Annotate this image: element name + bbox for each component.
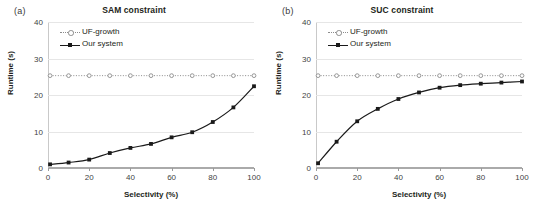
- chart-title-a: SAM constraint: [0, 5, 268, 15]
- x-tick-label: 60: [167, 173, 176, 182]
- data-point-marker: [67, 74, 71, 78]
- data-point-marker: [48, 74, 52, 78]
- data-point-marker: [170, 74, 174, 78]
- data-point-marker: [232, 74, 236, 78]
- data-point-marker: [232, 106, 236, 110]
- legend-label-our-system: Our system: [350, 38, 391, 50]
- data-point-marker: [458, 74, 462, 78]
- legend-item-our-system: Our system: [60, 38, 123, 50]
- data-point-marker: [190, 74, 194, 78]
- data-point-marker: [355, 119, 359, 123]
- data-point-marker: [211, 120, 215, 124]
- data-point-marker: [417, 91, 421, 95]
- data-point-marker: [129, 146, 133, 150]
- data-point-marker: [438, 74, 442, 78]
- data-point-marker: [479, 82, 483, 86]
- legend-marker-open-circle-icon: [328, 28, 348, 37]
- data-point-marker: [479, 74, 483, 78]
- x-tick: [89, 168, 90, 171]
- x-tick-label: 80: [476, 173, 485, 182]
- data-point-marker: [252, 74, 256, 78]
- data-point-marker: [190, 130, 194, 134]
- x-tick-label: 0: [46, 173, 50, 182]
- legend-label-uf-growth: UF-growth: [82, 26, 119, 38]
- data-point-marker: [170, 135, 174, 139]
- x-tick: [481, 168, 482, 171]
- y-tick-label: 40: [34, 18, 43, 27]
- x-tick: [316, 168, 317, 171]
- series-line-our-system: [50, 86, 254, 164]
- x-tick: [130, 168, 131, 171]
- legend-marker-filled-square-icon: [328, 40, 348, 49]
- y-gridline: [48, 168, 254, 169]
- data-point-marker: [67, 161, 71, 165]
- y-tick-label: 10: [34, 127, 43, 136]
- data-point-marker: [417, 74, 421, 78]
- data-point-marker: [397, 97, 401, 101]
- data-point-marker: [149, 74, 153, 78]
- data-point-marker: [108, 74, 112, 78]
- data-point-marker: [211, 74, 215, 78]
- data-point-marker: [376, 74, 380, 78]
- data-point-marker: [458, 83, 462, 87]
- x-tick-label: 100: [247, 173, 260, 182]
- x-tick-label: 40: [126, 173, 135, 182]
- legend-b: UF-growth Our system: [328, 26, 391, 51]
- x-axis-title-a: Selectivity (%): [48, 190, 254, 199]
- data-point-marker: [397, 74, 401, 78]
- legend-item-our-system: Our system: [328, 38, 391, 50]
- legend-a: UF-growth Our system: [60, 26, 123, 51]
- data-point-marker: [87, 74, 91, 78]
- x-tick: [522, 168, 523, 171]
- legend-marker-open-circle-icon: [60, 28, 80, 37]
- data-point-marker: [335, 74, 339, 78]
- y-tick-label: 30: [34, 54, 43, 63]
- y-gridline: [316, 168, 522, 169]
- y-axis-title-b: Runtime (s): [274, 51, 283, 95]
- chart-panel-b: (b) SUC constraint Runtime (s) Selectivi…: [268, 0, 536, 212]
- legend-label-our-system: Our system: [82, 38, 123, 50]
- x-tick-label: 60: [435, 173, 444, 182]
- x-tick-label: 80: [208, 173, 217, 182]
- x-tick-label: 0: [314, 173, 318, 182]
- x-tick: [213, 168, 214, 171]
- y-tick-label: 20: [302, 91, 311, 100]
- data-point-marker: [335, 140, 339, 144]
- x-tick: [440, 168, 441, 171]
- legend-marker-filled-square-icon: [60, 40, 80, 49]
- x-tick: [172, 168, 173, 171]
- legend-item-uf-growth: UF-growth: [60, 26, 123, 38]
- data-point-marker: [48, 162, 52, 166]
- y-tick-label: 30: [302, 54, 311, 63]
- x-tick: [254, 168, 255, 171]
- data-point-marker: [87, 158, 91, 162]
- data-point-marker: [500, 81, 504, 85]
- x-tick: [398, 168, 399, 171]
- x-tick: [48, 168, 49, 171]
- figure-root: (a) SAM constraint Runtime (s) Selectivi…: [0, 0, 536, 212]
- x-tick-label: 100: [515, 173, 528, 182]
- data-point-marker: [252, 84, 256, 88]
- data-point-marker: [129, 74, 133, 78]
- data-point-marker: [108, 151, 112, 155]
- data-point-marker: [316, 74, 320, 78]
- chart-panel-a: (a) SAM constraint Runtime (s) Selectivi…: [0, 0, 268, 212]
- data-point-marker: [438, 86, 442, 90]
- data-point-marker: [355, 74, 359, 78]
- x-tick-label: 40: [394, 173, 403, 182]
- chart-title-b: SUC constraint: [268, 5, 536, 15]
- data-point-marker: [520, 80, 524, 84]
- y-tick-label: 40: [302, 18, 311, 27]
- data-point-marker: [149, 142, 153, 146]
- x-tick-label: 20: [85, 173, 94, 182]
- legend-item-uf-growth: UF-growth: [328, 26, 391, 38]
- x-axis-title-b: Selectivity (%): [316, 190, 522, 199]
- data-point-marker: [520, 74, 524, 78]
- y-tick-label: 0: [307, 164, 311, 173]
- data-point-marker: [376, 107, 380, 111]
- data-point-marker: [316, 161, 320, 165]
- x-tick: [357, 168, 358, 171]
- y-tick-label: 0: [39, 164, 43, 173]
- y-tick-label: 20: [34, 91, 43, 100]
- x-tick-label: 20: [353, 173, 362, 182]
